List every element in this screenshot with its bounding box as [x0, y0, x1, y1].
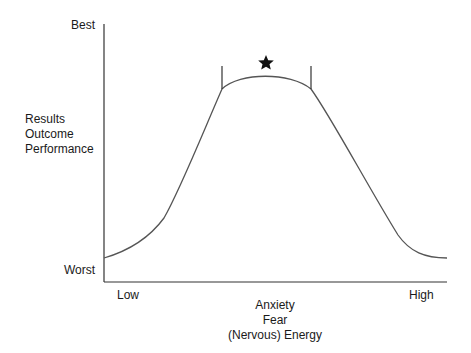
- x-axis-right-label: High: [409, 288, 434, 303]
- star-icon: [258, 55, 274, 70]
- x-axis-title-line: Fear: [215, 313, 335, 328]
- y-axis-title-line: Performance: [25, 142, 94, 157]
- x-axis-title-line: (Nervous) Energy: [215, 328, 335, 343]
- y-axis-title-line: Results: [25, 112, 94, 127]
- y-axis-top-label: Best: [71, 18, 95, 33]
- x-axis-left-label: Low: [117, 288, 139, 303]
- x-axis-title: Anxiety Fear (Nervous) Energy: [215, 298, 335, 343]
- x-axis-title-line: Anxiety: [215, 298, 335, 313]
- y-axis-bottom-label: Worst: [64, 263, 95, 278]
- inverted-u-curve: [104, 76, 447, 258]
- y-axis-title-line: Outcome: [25, 127, 94, 142]
- y-axis-title: Results Outcome Performance: [25, 112, 94, 157]
